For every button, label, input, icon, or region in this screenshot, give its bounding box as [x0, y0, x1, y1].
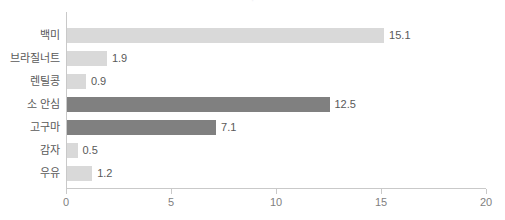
category-label: 우유: [0, 162, 60, 185]
x-tick-label: 15: [375, 196, 387, 208]
category-label: 소 안심: [0, 93, 60, 116]
bar-row: 감자0.5: [0, 139, 505, 162]
bar[interactable]: [67, 97, 330, 112]
x-tick-mark: [276, 189, 277, 194]
category-label: 렌틸콩: [0, 70, 60, 93]
bar-value-label: 7.1: [221, 116, 236, 139]
x-tick-label: 10: [270, 196, 282, 208]
bar-value-label: 12.5: [335, 93, 356, 116]
bar-value-label: 0.9: [91, 70, 106, 93]
bar-row: 우유1.2: [0, 162, 505, 185]
bar[interactable]: [67, 143, 78, 158]
bar-row: 브라질너트1.9: [0, 47, 505, 70]
x-tick-label: 20: [480, 196, 492, 208]
category-label: 고구마: [0, 116, 60, 139]
bar[interactable]: [67, 120, 216, 135]
category-label: 백미: [0, 24, 60, 47]
bar-value-label: 1.9: [112, 47, 127, 70]
bar-value-label: 0.5: [83, 139, 98, 162]
category-label: 감자: [0, 139, 60, 162]
bar-row: 렌틸콩0.9: [0, 70, 505, 93]
bar-row: 소 안심12.5: [0, 93, 505, 116]
horizontal-bar-chart: 백미15.1브라질너트1.9렌틸콩0.9소 안심12.5고구마7.1감자0.5우…: [0, 0, 505, 220]
x-tick-label: 5: [168, 196, 174, 208]
x-tick-mark: [381, 189, 382, 194]
category-label: 브라질너트: [0, 47, 60, 70]
bar-row: 고구마7.1: [0, 116, 505, 139]
x-tick-mark: [486, 189, 487, 194]
bar[interactable]: [67, 51, 107, 66]
x-tick-mark: [66, 189, 67, 194]
x-tick-mark: [171, 189, 172, 194]
bar-value-label: 15.1: [389, 24, 410, 47]
bar-value-label: 1.2: [97, 162, 112, 185]
bar[interactable]: [67, 166, 92, 181]
bar[interactable]: [67, 74, 86, 89]
bar-row: 백미15.1: [0, 24, 505, 47]
bar[interactable]: [67, 28, 384, 43]
x-tick-label: 0: [63, 196, 69, 208]
